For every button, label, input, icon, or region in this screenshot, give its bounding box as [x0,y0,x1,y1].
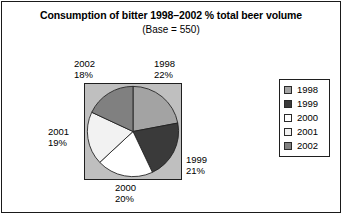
legend-label-2000: 2000 [297,113,318,123]
page-title: Consumption of bitter 1998–2002 % total … [2,9,340,22]
slice-callout-2001: 2001 19% [48,126,69,148]
pie-slice-group [87,86,178,176]
slice-callout-1998-pct: 22% [154,69,175,80]
slice-callout-2000-pct: 20% [115,193,136,204]
slice-callout-2001-pct: 19% [48,137,69,148]
pie-chart-svg [85,84,181,179]
legend-label-1999: 1999 [297,99,318,109]
legend-label-2001: 2001 [297,127,318,137]
slice-callout-1999-year: 1999 [186,154,207,165]
chart-subtitle: (Base = 550) [2,23,340,36]
pie-plot-area [84,83,182,180]
legend-swatch-2002-icon [284,142,292,150]
legend-label-2002: 2002 [297,141,318,151]
legend-swatch-2001-icon [284,128,292,136]
legend-item-2001[interactable]: 2001 [284,125,325,139]
legend-item-2000[interactable]: 2000 [284,111,325,125]
slice-callout-2002: 2002 18% [74,58,95,80]
slice-callout-2000: 2000 20% [115,182,136,204]
slice-callout-1998-year: 1998 [154,58,175,69]
title-block: Consumption of bitter 1998–2002 % total … [2,9,340,36]
slice-callout-2000-year: 2000 [115,182,136,193]
slice-callout-1999-pct: 21% [186,165,207,176]
slice-callout-2001-year: 2001 [48,126,69,137]
legend-swatch-2000-icon [284,114,292,122]
chart-figure: Consumption of bitter 1998–2002 % total … [1,1,341,213]
slice-callout-1999: 1999 21% [186,154,207,176]
legend-swatch-1998-icon [284,86,292,94]
legend-item-1999[interactable]: 1999 [284,97,325,111]
legend-swatch-1999-icon [284,100,292,108]
legend-label-1998: 1998 [297,85,318,95]
slice-callout-1998: 1998 22% [154,58,175,80]
legend-item-2002[interactable]: 2002 [284,139,325,153]
slice-callout-2002-pct: 18% [74,69,95,80]
legend-item-1998[interactable]: 1998 [284,83,325,97]
chart-legend: 19981999200020012002 [279,79,330,157]
slice-callout-2002-year: 2002 [74,58,95,69]
